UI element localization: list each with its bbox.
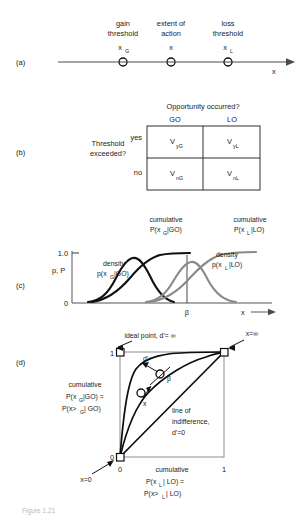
panel-d-ylabel-line3b: | GO) bbox=[84, 405, 101, 413]
panel-c-ytick-0: 0 bbox=[64, 299, 68, 308]
panel-d-ideal-point-label: ideal point, d'= ∞ bbox=[124, 332, 175, 340]
threshold-exceeded-line2: exceeded? bbox=[90, 149, 126, 158]
panel-d-label: (d) bbox=[16, 358, 26, 367]
panel-d-ylabel-line2b: |GO) = bbox=[83, 393, 104, 401]
opportunity-occurred-header: Opportunity occurred? bbox=[166, 102, 239, 111]
panel-d-ideal-point-leader bbox=[118, 341, 132, 347]
panel-c-annot-cumulative-lo: cumulative P(x L |LO) bbox=[234, 216, 267, 236]
panel-d-indifference-line1: line of bbox=[172, 407, 190, 414]
density-go-line2b: |GO) bbox=[114, 270, 129, 278]
panel-d-x-infinity-leader bbox=[230, 340, 244, 347]
panel-d-x-zero-leader-arrowhead bbox=[107, 460, 114, 467]
panel-a-marker-gain: gain threshold x G bbox=[108, 19, 138, 66]
panel-c-cumulative-lo-curve bbox=[150, 252, 256, 302]
panel-c-x-arrowhead bbox=[268, 309, 276, 315]
loss-threshold-subscript: L bbox=[230, 48, 233, 54]
panel-d-xlabel-line3: P(x> bbox=[144, 490, 158, 498]
panel-d-ylabel-line2: P(x bbox=[66, 393, 77, 401]
panel-c-beta-label: β bbox=[185, 308, 189, 317]
gain-threshold-line2: threshold bbox=[108, 29, 138, 38]
loss-threshold-line1: loss bbox=[221, 19, 234, 28]
panel-d-x-point-label: x bbox=[143, 400, 147, 407]
panel-d-xlabel-sub3: L bbox=[162, 494, 165, 500]
density-go-line1: density bbox=[103, 260, 125, 268]
threshold-exceeded-line1: Threshold bbox=[92, 139, 125, 148]
panel-d-indifference-line2: indifference, bbox=[172, 418, 209, 425]
panel-d-indifference-line3: d'=0 bbox=[172, 429, 185, 436]
panel-c-annot-density-go: density p(x G |GO) bbox=[97, 260, 129, 280]
row-label-yes: yes bbox=[130, 133, 142, 142]
panel-d-ytick-1: 1 bbox=[110, 349, 114, 358]
cell-yL-subscript: yL bbox=[233, 143, 239, 149]
panel-d-xtick-1: 1 bbox=[222, 465, 226, 474]
panel-c: (c) 1.0 0 p, P x β cumulative P(x G |GO) bbox=[16, 216, 276, 317]
payoff-cell-nG: V nG bbox=[170, 169, 183, 181]
cell-nL-subscript: nL bbox=[233, 175, 239, 181]
cell-yG-symbol: V bbox=[170, 137, 175, 146]
figure-container: (a) gain threshold x G extent of action … bbox=[0, 0, 304, 516]
density-lo-line1: density bbox=[216, 251, 238, 259]
panel-d: (d) 1 0 0 1 β x d' ideal point, bbox=[16, 330, 258, 500]
panel-c-ytick-1: 1.0 bbox=[58, 249, 68, 258]
cell-yL-symbol: V bbox=[227, 137, 232, 146]
gain-threshold-symbol: x bbox=[118, 43, 122, 52]
row-label-no: no bbox=[134, 168, 142, 177]
column-header-lo: LO bbox=[227, 115, 237, 124]
figure-caption: Figure 1.21 bbox=[22, 507, 56, 515]
cell-nG-subscript: nG bbox=[176, 175, 183, 181]
cell-yG-subscript: yG bbox=[176, 143, 183, 149]
panel-a-axis-label: x bbox=[272, 67, 276, 76]
column-header-go: GO bbox=[169, 115, 181, 124]
gain-threshold-subscript: G bbox=[125, 48, 129, 54]
panel-d-x-infinity-label: x=∞ bbox=[246, 330, 258, 337]
panel-b-label: (b) bbox=[16, 148, 26, 157]
panel-c-x-axis-label: x bbox=[241, 308, 245, 317]
panel-d-dprime-arrowhead bbox=[142, 362, 149, 368]
payoff-cell-yG: V yG bbox=[170, 137, 183, 149]
density-lo-line2: p(x bbox=[212, 261, 222, 269]
panel-a-label: (a) bbox=[16, 58, 26, 67]
cumulative-go-line2b: |GO) bbox=[167, 226, 182, 234]
payoff-cell-yL: V yL bbox=[227, 137, 239, 149]
cumulative-lo-line2b: |LO) bbox=[251, 226, 264, 234]
cell-nL-symbol: V bbox=[227, 169, 232, 178]
panel-d-x-point bbox=[137, 389, 145, 397]
panel-d-xtick-0: 0 bbox=[118, 465, 122, 474]
panel-c-label: (c) bbox=[16, 281, 25, 290]
panel-a: (a) gain threshold x G extent of action … bbox=[16, 19, 295, 76]
panel-d-xlabel-sub2: L bbox=[159, 482, 162, 488]
density-lo-line2b: |LO) bbox=[229, 261, 242, 269]
figure-svg: (a) gain threshold x G extent of action … bbox=[0, 0, 304, 516]
panel-d-x-axis-label: cumulative P(x L | LO) = P(x> L | LO) bbox=[144, 466, 189, 500]
panel-d-x-infinity-marker bbox=[221, 349, 229, 357]
cell-nG-symbol: V bbox=[170, 169, 175, 178]
panel-d-dprime-label: d' bbox=[143, 355, 148, 362]
cumulative-lo-line2: P(x bbox=[234, 226, 245, 234]
panel-d-xlabel-line3b: | LO) bbox=[166, 490, 181, 498]
loss-threshold-symbol: x bbox=[223, 43, 227, 52]
panel-c-annot-cumulative-go: cumulative P(x G |GO) bbox=[150, 216, 183, 236]
panel-d-xlabel-line2: P(x bbox=[146, 478, 157, 486]
extent-action-symbol: x bbox=[169, 43, 173, 52]
panel-b: (b) Opportunity occurred? GO LO Threshol… bbox=[16, 102, 260, 190]
panel-c-y-axis-label: p, P bbox=[52, 266, 65, 275]
cumulative-lo-subscript: L bbox=[247, 230, 250, 236]
panel-d-indifference-annotation: line of indifference, d'=0 bbox=[172, 407, 209, 436]
panel-d-indifference-line bbox=[120, 352, 224, 457]
cumulative-lo-line1: cumulative bbox=[234, 216, 267, 223]
panel-d-y-axis-label: cumulative P(x G |GO) = P(x> G | GO) bbox=[62, 381, 104, 415]
panel-c-annot-density-lo: density p(x L |LO) bbox=[212, 251, 242, 271]
panel-d-x-zero-label: x=0 bbox=[80, 476, 91, 483]
loss-threshold-line2: threshold bbox=[213, 29, 243, 38]
density-lo-subscript: L bbox=[225, 265, 228, 271]
extent-action-line2: action bbox=[161, 29, 181, 38]
gain-threshold-line1: gain bbox=[116, 19, 130, 28]
panel-a-marker-loss: loss threshold x L bbox=[213, 19, 243, 66]
payoff-cell-nL: V nL bbox=[227, 169, 239, 181]
cumulative-go-line2: P(x bbox=[150, 226, 161, 234]
cumulative-go-line1: cumulative bbox=[150, 216, 183, 223]
panel-d-ylabel-line3: P(x> bbox=[62, 405, 76, 413]
panel-d-xlabel-line2b: | LO) = bbox=[163, 478, 184, 486]
panel-d-beta-label: β bbox=[167, 375, 171, 383]
density-go-line2: p(x bbox=[97, 270, 107, 278]
